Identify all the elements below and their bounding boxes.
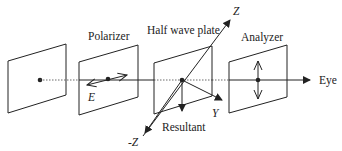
neg-z-axis-label: -Z [128, 136, 139, 148]
resultant-label: Resultant [162, 121, 206, 133]
z-axis-label: Z [233, 5, 240, 17]
source-plate [8, 44, 66, 113]
y-axis-arrow [182, 80, 222, 100]
half-wave-plate-label: Half wave plate [147, 24, 220, 37]
y-axis-label: Y [212, 107, 220, 119]
analyzer-plate [229, 45, 287, 113]
analyzer-label: Analyzer [241, 31, 283, 44]
optics-diagram: Polarizer Half wave plate Analyzer Eye Z… [0, 0, 342, 151]
polarizer-label: Polarizer [88, 30, 130, 42]
eye-label: Eye [319, 74, 337, 87]
e-field-label: E [87, 91, 95, 103]
